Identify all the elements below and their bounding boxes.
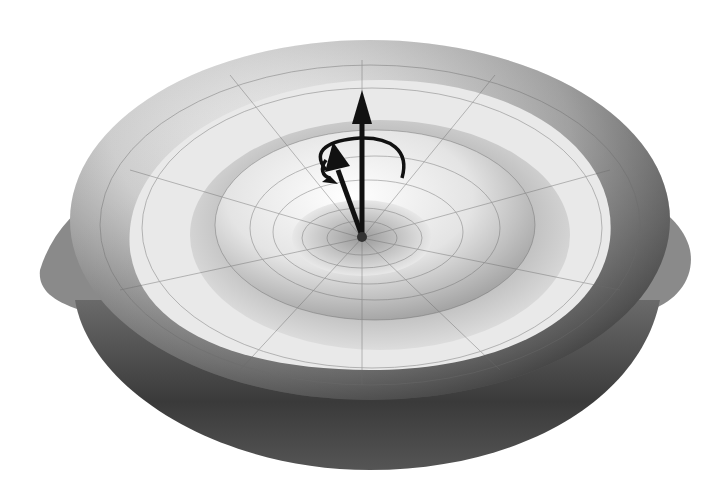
surface-render [0, 0, 724, 490]
pivot-point [357, 232, 367, 242]
potential-surface-image [0, 0, 724, 490]
